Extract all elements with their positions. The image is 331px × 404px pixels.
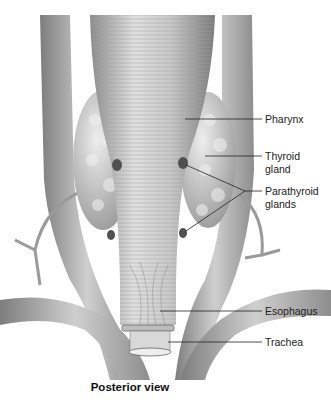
figure-caption: Posterior view bbox=[0, 381, 260, 393]
label-esophagus: Esophagus bbox=[265, 305, 318, 318]
label-thyroid-line2: gland bbox=[265, 163, 300, 176]
label-pharynx: Pharynx bbox=[265, 113, 304, 126]
label-parathyroid-glands: Parathyroid glands bbox=[265, 185, 319, 210]
trachea bbox=[122, 325, 174, 356]
label-parathyroid-line1: Parathyroid bbox=[265, 185, 319, 198]
label-thyroid-gland: Thyroid gland bbox=[265, 150, 300, 175]
label-trachea: Trachea bbox=[265, 336, 303, 349]
label-thyroid-line1: Thyroid bbox=[265, 150, 300, 163]
label-parathyroid-line2: glands bbox=[265, 198, 319, 211]
